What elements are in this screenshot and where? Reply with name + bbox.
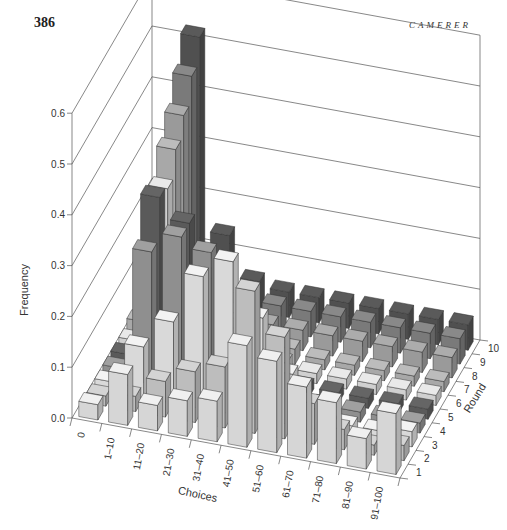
frequency-tick-label: 0.3 [51,260,65,271]
choices-tick-label: 0 [75,431,87,439]
round-tick-label: 9 [480,357,486,368]
frequency-tick-label: 0.6 [51,108,65,119]
bar [347,426,371,469]
choices-tick-label: 81–90 [340,480,356,510]
bar-chart-3d: 0.00.10.20.30.40.50.6 01–1011–2021–3031–… [0,0,507,530]
bar [168,389,192,437]
round-tick-label: 10 [488,343,500,354]
bar [79,392,103,420]
choices-tick-label: 31–40 [191,453,207,483]
bar [317,390,341,463]
bar [198,389,222,442]
round-tick-label: 8 [472,371,478,382]
frequency-axis-title: Frequency [18,264,30,316]
choices-tick-label: 1–10 [102,436,117,460]
bars [79,25,473,475]
choices-tick-label: 91–100 [368,485,385,520]
round-tick-label: 4 [440,426,446,437]
choices-tick-label: 51–60 [250,464,266,494]
choices-tick-label: 41–50 [220,458,236,488]
choices-axis-title: Choices [177,484,219,504]
frequency-tick-label: 0.2 [51,311,65,322]
round-tick-label: 2 [424,453,430,464]
bar [258,349,282,453]
bar [288,375,312,459]
bar [109,362,133,425]
round-tick-label: 5 [448,412,454,423]
choices-tick-label: 61–70 [280,469,296,499]
choices-tick-label: 21–30 [161,447,177,477]
round-tick-label: 3 [432,440,438,451]
bar [377,401,401,474]
frequency-tick-label: 0.4 [51,209,65,220]
frequency-tick-label: 0.1 [51,362,65,373]
choices-tick-label: 71–80 [310,474,326,504]
frequency-axis: 0.00.10.20.30.40.50.6 [51,108,72,424]
bar [228,333,252,447]
frequency-tick-label: 0.5 [51,159,65,170]
choices-tick-label: 11–20 [131,442,147,471]
round-tick-label: 1 [416,467,422,478]
bar [138,393,162,431]
frequency-tick-label: 0.0 [51,413,65,424]
